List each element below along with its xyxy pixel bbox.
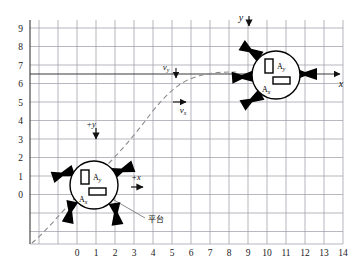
grid-lines (30, 20, 343, 244)
vy-label: vy (163, 62, 170, 73)
x-tick-12: 12 (300, 248, 310, 258)
x-tick-labels: 0 1 2 3 4 5 6 7 8 9 10 11 12 13 14 (75, 248, 348, 258)
x-tick-0: 0 (75, 248, 80, 258)
robot-start[interactable]: Ay Ax (51, 161, 136, 226)
diagram-svg: 0 1 2 3 4 5 6 7 8 9 10 11 12 13 14 9 8 7… (0, 0, 354, 271)
platform-label: 平台 (148, 214, 164, 224)
figure-container: 0 1 2 3 4 5 6 7 8 9 10 11 12 13 14 9 8 7… (0, 0, 354, 271)
x-tick-13: 13 (319, 248, 329, 258)
x-tick-10: 10 (262, 248, 272, 258)
robot-end[interactable]: Ay Ax (232, 40, 317, 111)
y-tick-5: 5 (18, 98, 23, 108)
x-tick-7: 7 (208, 248, 213, 258)
plus-x-marker: +x (131, 172, 143, 187)
y-tick-4: 4 (18, 116, 23, 126)
vx-label: vx (180, 105, 187, 116)
x-tick-3: 3 (132, 248, 137, 258)
actuator-y-icon (265, 59, 273, 73)
x-tick-9: 9 (246, 248, 251, 258)
y-tick-6: 6 (18, 79, 23, 89)
y-tick-0: 0 (18, 190, 23, 200)
plus-y-marker: +y (86, 119, 96, 139)
x-tick-11: 11 (281, 248, 290, 258)
plus-y-label: +y (86, 119, 96, 129)
x-tick-1: 1 (94, 248, 99, 258)
actuator-x-icon (89, 188, 106, 195)
x-tick-4: 4 (151, 248, 156, 258)
x-tick-6: 6 (189, 248, 194, 258)
y-tick-7: 7 (18, 61, 23, 71)
y-axis-label: y (238, 12, 244, 23)
velocity-vx: vx (173, 102, 187, 116)
robot-body (70, 161, 118, 209)
x-tick-8: 8 (227, 248, 232, 258)
x-axis-label: x (338, 78, 344, 89)
y-tick-2: 2 (18, 153, 23, 163)
y-tick-9: 9 (18, 24, 23, 34)
velocity-vy: vy (163, 62, 176, 78)
plus-x-label: +x (131, 172, 141, 182)
wheel-bottom-right-icon (109, 202, 124, 225)
y-tick-3: 3 (18, 135, 23, 145)
wheel-bottom-left-icon (62, 200, 78, 224)
actuator-y-icon (81, 170, 89, 184)
axis-lines (30, 20, 340, 244)
y-tick-1: 1 (18, 172, 23, 182)
actuator-x-icon (273, 77, 290, 84)
x-tick-2: 2 (113, 248, 118, 258)
x-tick-5: 5 (170, 248, 175, 258)
y-tick-8: 8 (18, 42, 23, 52)
x-tick-14: 14 (338, 248, 348, 258)
y-tick-labels: 9 8 7 6 5 4 3 2 1 0 (18, 24, 23, 201)
robot-body (252, 51, 300, 99)
